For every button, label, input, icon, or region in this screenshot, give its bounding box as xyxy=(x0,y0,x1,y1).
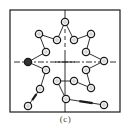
node-circle xyxy=(35,30,42,37)
node-circle xyxy=(82,66,89,73)
node-circle xyxy=(87,30,94,37)
node-circle xyxy=(42,66,49,73)
node-circle xyxy=(24,102,31,109)
arrow-icon xyxy=(79,101,92,103)
node-circle xyxy=(61,18,68,25)
node-circle xyxy=(53,36,60,43)
node-circle xyxy=(70,77,77,84)
node-circle xyxy=(62,95,69,102)
node-circle xyxy=(100,57,107,64)
node-circle xyxy=(24,58,31,65)
node-circle xyxy=(53,77,60,84)
path-nodes xyxy=(24,18,107,109)
node-circle xyxy=(100,101,107,108)
figure-caption: (c) xyxy=(0,114,131,124)
node-circle xyxy=(70,36,77,43)
node-circle xyxy=(82,48,89,55)
node-circle xyxy=(87,84,94,91)
node-circle xyxy=(36,85,43,92)
node-circle xyxy=(42,48,49,55)
arrow-icon xyxy=(32,94,36,100)
